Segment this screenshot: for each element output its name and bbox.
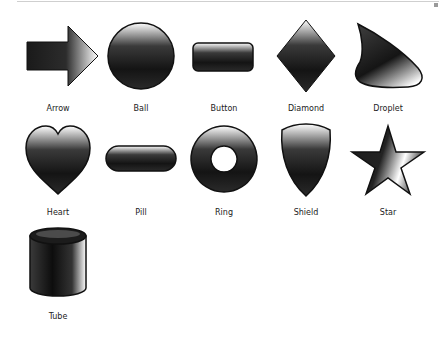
tube-icon (18, 222, 98, 302)
shape-shield[interactable]: Shield (266, 120, 346, 220)
shape-heart[interactable]: Heart (18, 120, 98, 220)
shape-star[interactable]: Star (348, 120, 428, 220)
shape-label: Shield (266, 208, 346, 217)
heart-icon (18, 120, 98, 200)
shape-ring[interactable]: Ring (184, 120, 264, 220)
shape-label: Droplet (348, 104, 428, 113)
shape-droplet[interactable]: Droplet (348, 16, 428, 116)
shape-label: Button (184, 104, 264, 113)
arrow-icon (18, 16, 98, 96)
star-icon (348, 120, 428, 200)
shape-diamond[interactable]: Diamond (266, 16, 346, 116)
shape-pill[interactable]: Pill (101, 120, 181, 220)
ring-icon (184, 120, 264, 200)
ball-icon (101, 16, 181, 96)
shape-label: Arrow (18, 104, 98, 113)
pill-icon (101, 120, 181, 200)
shape-label: Ball (101, 104, 181, 113)
shape-label: Pill (101, 208, 181, 217)
scroll-indicator[interactable] (434, 3, 438, 7)
diamond-icon (266, 16, 346, 96)
top-border (17, 1, 439, 2)
shape-label: Heart (18, 208, 98, 217)
shape-label: Tube (18, 312, 98, 321)
droplet-icon (348, 16, 428, 96)
shape-ball[interactable]: Ball (101, 16, 181, 116)
shape-arrow[interactable]: Arrow (18, 16, 98, 116)
shape-label: Star (348, 208, 428, 217)
shape-label: Diamond (266, 104, 346, 113)
button-icon (184, 16, 264, 96)
shield-icon (266, 120, 346, 200)
shape-button[interactable]: Button (184, 16, 264, 116)
shape-tube[interactable]: Tube (18, 222, 98, 322)
shape-label: Ring (184, 208, 264, 217)
